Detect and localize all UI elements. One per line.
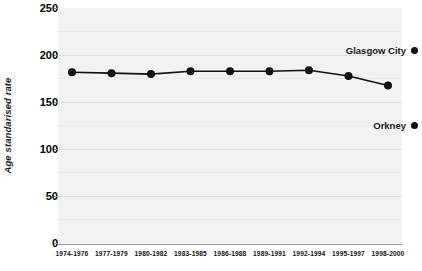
data-point [266, 67, 274, 75]
y-tick-label-50: 50 [20, 191, 58, 202]
data-point [305, 66, 313, 74]
y-tick-label-0: 0 [20, 238, 58, 249]
data-point [384, 81, 392, 89]
data-point [68, 68, 76, 76]
plot-area [58, 8, 402, 244]
legend-item-orkney: Orkney [373, 120, 418, 131]
x-axis-tick-label: 1995-1997 [332, 250, 365, 257]
y-tick-label-150: 150 [20, 97, 58, 108]
x-axis-labels: 1974-19761977-19791980-19821983-19851986… [58, 250, 402, 266]
filled-circle-icon [411, 122, 418, 129]
data-point [147, 70, 155, 78]
legend-item-glasgow-city: Glasgow City [346, 45, 418, 56]
x-axis-tick-label: 1989-1991 [253, 250, 286, 257]
y-tick-label-250: 250 [20, 3, 58, 14]
y-axis-ticks: 250 200 150 100 50 0 [0, 0, 58, 271]
x-axis-tick-label: 1980-1982 [135, 250, 168, 257]
legend-label-orkney: Orkney [373, 120, 406, 131]
y-tick-label-200: 200 [20, 50, 58, 61]
x-axis-tick-label: 1986-1988 [214, 250, 247, 257]
series-markers-glasgow-city [68, 66, 392, 89]
filled-circle-icon [411, 47, 418, 54]
chart-container: Age standarised rate 250 200 150 100 50 … [0, 0, 422, 271]
data-point [187, 67, 195, 75]
legend-label-glasgow-city: Glasgow City [346, 45, 406, 56]
x-axis-tick-label: 1998-2000 [372, 250, 405, 257]
series-glasgow-city [58, 8, 402, 244]
x-axis-tick-label: 1983-1985 [174, 250, 207, 257]
y-tick-label-100: 100 [20, 144, 58, 155]
data-point [226, 67, 234, 75]
data-point [108, 69, 116, 77]
x-axis-tick-label: 1977-1979 [95, 250, 128, 257]
data-point [345, 72, 353, 80]
x-axis-tick-label: 1992-1994 [293, 250, 326, 257]
x-axis-tick-label: 1974-1976 [56, 250, 89, 257]
x-axis-line [58, 244, 402, 245]
